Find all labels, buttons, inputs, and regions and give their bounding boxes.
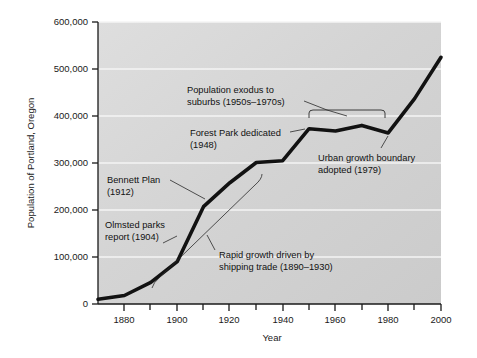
x-tick-label-1920: 1920 <box>218 314 239 325</box>
y-tick-label-400000: 400,000 <box>54 110 88 121</box>
y-axis-title: Population of Portland, Oregon <box>25 98 36 228</box>
x-tick-label-1960: 1960 <box>324 314 345 325</box>
y-tick-label-300000: 300,000 <box>54 157 88 168</box>
x-tick-label-1980: 1980 <box>377 314 398 325</box>
rapid-growth-label-line2: shipping trade (1890–1930) <box>219 262 333 272</box>
bennett-plan-label-line1: Bennett Plan <box>107 175 160 185</box>
bennett-plan-label-line2: (1912) <box>107 187 134 197</box>
population-exodus-label-line1: Population exodus to <box>187 85 274 95</box>
x-tick-label-2000: 2000 <box>430 314 451 325</box>
population-exodus-label-line2: suburbs (1950s–1970s) <box>187 97 285 107</box>
x-tick-label-1880: 1880 <box>113 314 134 325</box>
y-tick-label-0: 0 <box>83 298 88 309</box>
y-tick-label-200000: 200,000 <box>54 204 88 215</box>
olmsted-parks-label-line1: Olmsted parks <box>105 220 165 230</box>
olmsted-parks-label-line2: report (1904) <box>105 232 159 242</box>
y-tick-label-500000: 500,000 <box>54 63 88 74</box>
forest-park-label-line1: Forest Park dedicated <box>190 128 281 138</box>
urban-growth-boundary-label-line2: adopted (1979) <box>318 165 381 175</box>
forest-park-label-line2: (1948) <box>190 140 217 150</box>
x-tick-label-1940: 1940 <box>272 314 293 325</box>
x-axis-title: Year <box>262 332 281 343</box>
x-tick-label-1900: 1900 <box>166 314 187 325</box>
y-tick-label-600000: 600,000 <box>54 16 88 27</box>
y-tick-label-100000: 100,000 <box>54 251 88 262</box>
rapid-growth-label-line1: Rapid growth driven by <box>219 250 314 260</box>
chart-svg: 600,000 500,000 400,000 300,000 200,000 … <box>0 0 477 358</box>
population-line-chart-figure: 600,000 500,000 400,000 300,000 200,000 … <box>0 0 477 358</box>
urban-growth-boundary-label-line1: Urban growth boundary <box>318 153 416 163</box>
